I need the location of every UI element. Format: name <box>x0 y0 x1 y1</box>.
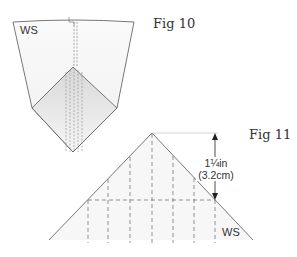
arrow-up-icon <box>212 133 218 140</box>
diagram-canvas: Fig 10 WS Fig 11 WS 1¼in (3.2cm) <box>0 0 297 257</box>
measurement-label: 1¼in (3.2cm) <box>196 157 236 181</box>
fig11-ws-label: WS <box>222 226 240 238</box>
measurement-imperial: 1¼in <box>196 157 236 169</box>
fig11-label: Fig 11 <box>249 127 291 142</box>
fig10-label: Fig 10 <box>153 16 195 31</box>
fig10-ws-label: WS <box>20 24 38 36</box>
measurement-metric: (3.2cm) <box>196 169 236 181</box>
fig10-drawing <box>13 17 134 152</box>
